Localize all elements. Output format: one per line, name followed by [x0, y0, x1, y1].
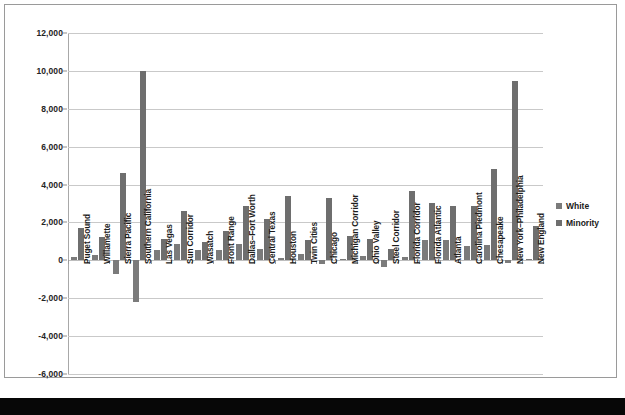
bar-minority [181, 211, 187, 261]
chart-frame: 12,00010,0008,0006,0004,0002,0000-2,000-… [4, 4, 617, 378]
bar-group [399, 33, 420, 374]
x-axis-tickmark [316, 260, 317, 264]
bar-minority [78, 228, 84, 260]
bar-minority [367, 239, 373, 261]
bar-minority [161, 239, 167, 260]
y-axis-tickmark [63, 336, 67, 337]
legend-label-white: White [566, 201, 589, 211]
x-axis-tickmark [89, 260, 90, 264]
bar-group [460, 33, 481, 374]
bar-group [151, 33, 172, 374]
y-axis-tick-label: -2,000 [38, 293, 63, 303]
x-axis-tickmark [254, 260, 255, 264]
x-axis-tickmark [192, 260, 193, 264]
bar-white [484, 245, 490, 260]
bar-minority [202, 242, 208, 261]
bar-minority [305, 240, 311, 260]
y-axis-tick-label: 10,000 [36, 66, 63, 76]
bar-white [154, 250, 160, 260]
bar-white [113, 260, 119, 273]
y-axis-tick-label: 4,000 [41, 180, 63, 190]
bar-white [92, 255, 98, 261]
bar-white [195, 250, 201, 260]
bar-white [464, 246, 470, 260]
legend-item-white: White [556, 201, 599, 211]
x-axis-tickmark [522, 260, 523, 264]
y-axis-tick-label: 2,000 [41, 217, 63, 227]
bar-white [443, 240, 449, 260]
bar-minority [429, 203, 435, 261]
bar-group [213, 33, 234, 374]
x-axis-tickmark [378, 260, 379, 264]
legend-item-minority: Minority [556, 218, 599, 228]
y-axis-tickmark [63, 70, 67, 71]
bar-minority [512, 81, 518, 261]
x-axis-tickmark [109, 260, 110, 264]
bar-minority [347, 236, 353, 261]
y-axis-tickmark [63, 222, 67, 223]
x-axis-tickmark [398, 260, 399, 264]
y-axis-tick-label: 8,000 [41, 104, 63, 114]
x-axis-tickmark [213, 260, 214, 264]
bar-group [68, 33, 89, 374]
x-axis-tickmark [440, 260, 441, 264]
bar-minority [409, 191, 415, 260]
bar-white [71, 257, 77, 260]
bar-white [360, 256, 366, 260]
bar-group [316, 33, 337, 374]
bar-minority [140, 71, 146, 260]
bar-group [357, 33, 378, 374]
bar-group [275, 33, 296, 374]
bar-group [481, 33, 502, 374]
bar-group [254, 33, 275, 374]
bar-minority [223, 231, 229, 260]
bar-white [526, 259, 532, 261]
bar-group [171, 33, 192, 374]
bottom-black-strip [0, 398, 625, 415]
bar-group [192, 33, 213, 374]
bar-groups [68, 33, 543, 374]
x-axis-tickmark [275, 260, 276, 264]
bar-minority [533, 226, 539, 261]
bar-white [422, 240, 428, 260]
chart-legend: White Minority [556, 201, 599, 235]
bar-group [502, 33, 523, 374]
bar-white [319, 260, 325, 263]
bar-white [298, 254, 304, 260]
bar-group [109, 33, 130, 374]
bar-minority [243, 206, 249, 261]
x-axis-tickmark [460, 260, 461, 264]
bar-white [133, 260, 139, 302]
plot-area [68, 33, 543, 374]
x-axis-tickmark [502, 260, 503, 264]
bar-group [522, 33, 543, 374]
x-axis-tickmark [295, 260, 296, 264]
bar-group [378, 33, 399, 374]
gridline [68, 374, 543, 375]
bar-minority [388, 249, 394, 261]
bar-white [402, 257, 408, 260]
x-axis-tickmark [336, 260, 337, 264]
x-axis-tickmark [481, 260, 482, 264]
minority-swatch-icon [556, 220, 562, 226]
bar-minority [326, 198, 332, 260]
bar-minority [491, 169, 497, 261]
bar-white [236, 244, 242, 261]
y-axis-tickmark [63, 108, 67, 109]
bar-white [174, 244, 180, 261]
y-axis-tickmark [63, 298, 67, 299]
bar-white [216, 250, 222, 260]
bar-white [340, 259, 346, 260]
bar-group [440, 33, 461, 374]
bar-minority [285, 196, 291, 260]
bar-minority [99, 237, 105, 261]
bar-minority [471, 206, 477, 261]
y-axis-tickmark [63, 260, 67, 261]
y-axis-tickmark [63, 33, 67, 34]
bar-white [381, 260, 387, 266]
y-axis-tick-label: -4,000 [38, 331, 63, 341]
y-axis-tickmark [63, 146, 67, 147]
x-axis-tickmark [130, 260, 131, 264]
bar-minority [264, 219, 270, 260]
bar-minority [450, 206, 456, 260]
